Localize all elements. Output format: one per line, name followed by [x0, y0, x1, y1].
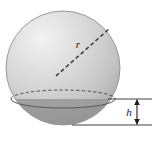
spherical-cap-figure: r h [0, 0, 155, 142]
figure-canvas: r h [0, 0, 155, 142]
cap-height-label: h [126, 106, 132, 118]
height-arrow-head-up [134, 99, 140, 105]
height-arrow-head-down [134, 119, 140, 125]
radius-label: r [76, 38, 81, 50]
